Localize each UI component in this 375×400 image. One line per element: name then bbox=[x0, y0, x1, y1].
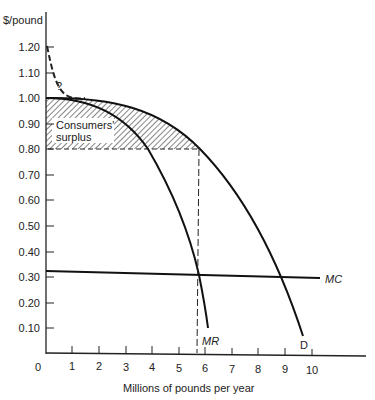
question-mark-label: ? bbox=[56, 80, 62, 92]
y-tick-label: 0.20 bbox=[19, 297, 40, 309]
x-tick-label: 2 bbox=[96, 360, 102, 372]
y-tick-label: 0.60 bbox=[19, 194, 40, 206]
x-tick-label: 9 bbox=[282, 363, 288, 375]
y-tick-label: 1.10 bbox=[19, 67, 40, 79]
x-tick-label: 5 bbox=[176, 362, 182, 374]
x-tick-label: 8 bbox=[255, 363, 261, 375]
x-tick-label: 6 bbox=[202, 362, 208, 374]
y-tick-label: 0.40 bbox=[19, 246, 40, 258]
consumers-surplus-label-line1: Consumers' bbox=[56, 119, 114, 131]
chart: 1.20 1.10 1.00 0.90 0.80 0.70 0.60 0.50 … bbox=[0, 0, 375, 400]
y-tick-label: 0.50 bbox=[19, 220, 40, 232]
x-tick-label: 3 bbox=[123, 361, 129, 373]
output-dashed-line bbox=[197, 149, 199, 353]
x-tick-label: 10 bbox=[306, 364, 318, 376]
x-tick-label: 1 bbox=[69, 360, 75, 372]
y-tick-labels: 1.20 1.10 1.00 0.90 0.80 0.70 0.60 0.50 … bbox=[19, 41, 40, 334]
d-label: D bbox=[300, 339, 308, 351]
y-tick-label: 0.10 bbox=[19, 322, 40, 334]
consumers-surplus-label-line2: surplus bbox=[56, 131, 92, 143]
y-tick-label: 1.20 bbox=[19, 41, 40, 53]
y-axis-title: $/pound bbox=[3, 14, 43, 26]
y-tick-label: 1.00 bbox=[19, 92, 40, 104]
x-axis bbox=[46, 346, 366, 356]
y-tick-label: 0.30 bbox=[19, 271, 40, 283]
dashed-curve bbox=[47, 46, 85, 99]
x-tick-label: 4 bbox=[149, 361, 155, 373]
y-tick-label: 0.90 bbox=[19, 118, 40, 130]
y-tick-label: 0.80 bbox=[19, 143, 40, 155]
x-tick-label: 7 bbox=[229, 363, 235, 375]
y-tick-label: 0.70 bbox=[19, 169, 40, 181]
y-axis bbox=[46, 12, 54, 354]
mr-label: MR bbox=[202, 335, 219, 347]
origin-label: 0 bbox=[35, 361, 41, 373]
x-tick-labels: 0 1 2 3 4 5 6 7 8 9 10 bbox=[35, 360, 318, 376]
mc-label: MC bbox=[325, 273, 342, 285]
x-axis-title: Millions of pounds per year bbox=[123, 382, 255, 394]
